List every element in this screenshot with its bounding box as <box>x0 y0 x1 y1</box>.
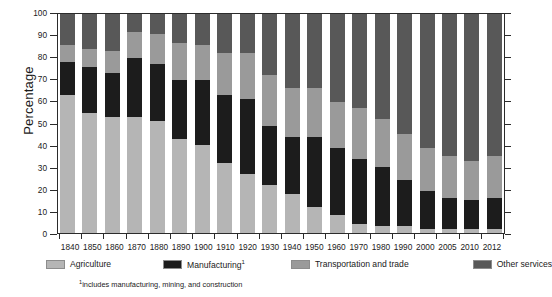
y-axis-label: 20 <box>12 185 47 195</box>
bar-1970 <box>352 14 367 233</box>
bar-1930 <box>262 14 277 233</box>
footnote-text: includes manufacturing, mining, and cons… <box>82 280 242 289</box>
y-axis-label: 10 <box>12 207 47 217</box>
bar-segment <box>262 75 277 125</box>
bar-segment <box>487 198 502 229</box>
y-axis-label: 80 <box>12 52 47 62</box>
x-axis-tick <box>81 234 82 239</box>
bar-segment <box>82 113 97 233</box>
y-axis-tick-right <box>505 35 511 36</box>
bar-segment <box>420 14 435 148</box>
y-axis-label: 30 <box>12 163 47 173</box>
bar-segment <box>397 134 412 180</box>
y-axis-tick <box>50 124 57 125</box>
bar-segment <box>307 14 322 88</box>
bar-segment <box>330 215 345 233</box>
bar-segment <box>150 14 165 34</box>
y-axis-tick-right <box>505 190 511 191</box>
y-axis-tick-right <box>505 234 511 235</box>
bar-segment <box>60 14 75 45</box>
y-axis-tick <box>50 146 57 147</box>
y-axis-tick <box>50 168 57 169</box>
bar-2010 <box>464 14 479 233</box>
bar-segment <box>217 14 232 53</box>
bar-segment <box>420 191 435 228</box>
bar-segment <box>262 185 277 233</box>
bar-segment <box>285 14 300 88</box>
bar-segment <box>330 14 345 102</box>
bar-segment <box>352 224 367 233</box>
legend-item-manufacturing[interactable]: Manufacturing1 <box>163 259 245 270</box>
chart-footnote: 1includes manufacturing, mining, and con… <box>79 279 242 289</box>
bar-segment <box>397 14 412 134</box>
bar-segment <box>105 51 120 73</box>
y-axis-label: 90 <box>12 30 47 40</box>
y-axis-tick <box>50 57 57 58</box>
bar-segment <box>195 80 210 146</box>
y-axis-tick-right <box>505 168 511 169</box>
bar-segment <box>420 148 435 192</box>
y-axis-label: 60 <box>12 96 47 106</box>
x-axis-tick <box>259 234 260 239</box>
bar-segment <box>352 159 367 225</box>
bar-segment <box>195 14 210 45</box>
legend-swatch-icon <box>163 260 182 269</box>
bar-segment <box>217 163 232 233</box>
y-axis-tick <box>50 212 57 213</box>
legend-swatch-icon <box>46 260 65 269</box>
bar-segment <box>307 88 322 136</box>
y-axis-tick-right <box>505 101 511 102</box>
legend-item-transportation-and-trade[interactable]: Transportation and trade <box>291 259 409 269</box>
bar-segment <box>464 200 479 228</box>
bar-1870 <box>127 14 142 233</box>
legend-label: Transportation and trade <box>315 259 409 269</box>
y-axis-label: 100 <box>12 8 47 18</box>
bar-segment <box>285 88 300 136</box>
bar-2000 <box>420 14 435 233</box>
bar-2012 <box>487 14 502 233</box>
bar-segment <box>82 67 97 113</box>
y-axis-tick-right <box>505 57 511 58</box>
y-axis-tick-right <box>505 13 511 14</box>
legend-swatch-icon <box>473 260 492 269</box>
y-axis-tick-right <box>505 146 511 147</box>
x-axis-tick <box>436 234 437 239</box>
bar-segment <box>442 198 457 229</box>
x-axis-tick <box>414 234 415 239</box>
y-axis-tick <box>50 190 57 191</box>
bar-segment <box>217 53 232 95</box>
bar-segment <box>352 108 367 158</box>
bar-segment <box>172 14 187 42</box>
bar-1880 <box>150 14 165 233</box>
bar-segment <box>352 14 367 108</box>
bar-segment <box>487 229 502 233</box>
bar-segment <box>172 80 187 139</box>
x-axis-tick <box>237 234 238 239</box>
bar-1860 <box>105 14 120 233</box>
y-axis-tick <box>50 79 57 80</box>
bar-segment <box>487 14 502 156</box>
x-axis-label-2012: 2012 <box>472 242 512 252</box>
bar-1980 <box>375 14 390 233</box>
bar-segment <box>375 167 390 226</box>
legend-superscript: 1 <box>242 259 245 265</box>
legend-label: Agriculture <box>70 259 111 269</box>
x-axis-tick <box>481 234 482 239</box>
bar-segment <box>127 58 142 117</box>
bar-segment <box>172 139 187 233</box>
legend-item-other-services[interactable]: Other services <box>473 259 552 269</box>
x-axis-tick <box>103 234 104 239</box>
chart-legend: AgricultureManufacturing1Transportation … <box>46 259 514 270</box>
x-axis-tick <box>348 234 349 239</box>
legend-label: Manufacturing1 <box>187 259 245 270</box>
x-axis-tick <box>459 234 460 239</box>
bar-segment <box>60 95 75 233</box>
y-axis-label: 40 <box>12 141 47 151</box>
bar-segment <box>150 121 165 233</box>
bar-segment <box>397 226 412 233</box>
bar-segment <box>60 45 75 63</box>
legend-item-agriculture[interactable]: Agriculture <box>46 259 111 269</box>
bar-1900 <box>195 14 210 233</box>
bar-segment <box>240 14 255 53</box>
bar-segment <box>240 53 255 99</box>
